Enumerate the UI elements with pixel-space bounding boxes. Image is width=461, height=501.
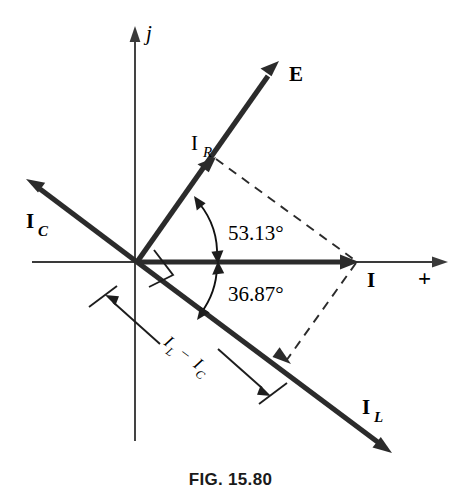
phasor-IL-label-sub: L [373,409,383,425]
phasor-diagram-canvas: j + E I R I C I L I 53.13° 36.87° I L − … [0,0,461,501]
phasor-IC-label: I C [26,209,49,239]
dashed-line-i-to-il [286,263,356,361]
phasor-IL-label: I L [362,395,383,425]
imaginary-axis-arrowhead [130,26,141,42]
phasor-diagram-figure: j + E I R I C I L I 53.13° 36.87° I L − … [0,0,461,501]
phasor-IR-label: I R [191,131,212,160]
dimension-leader-left [113,302,160,344]
angle-label-36: 36.87° [228,282,284,306]
dashed-line-ir-to-i [216,159,356,261]
phasor-IR-label-sub: R [202,144,212,160]
phasor-E-label: E [289,62,303,86]
angle-arc-53-path [199,203,217,258]
phasor-I-total [137,255,359,270]
phasor-I-label: I [367,268,375,292]
phasor-IL-mid-arrowhead [273,347,292,364]
phasor-IC [26,179,137,262]
phasor-IR-label-main: I [191,131,198,155]
phasor-IC-label-sub: C [38,223,49,239]
real-axis-arrowhead [432,257,448,268]
real-axis-label: + [418,266,431,291]
right-angle-marker [149,250,173,287]
dimension-leader-left-arrowhead [105,295,119,306]
angle-arc-53 [194,196,223,264]
angle-label-53: 53.13° [228,221,284,245]
dimension-label-group: I L − I C [157,331,215,383]
right-angle-marker-corner [149,250,173,287]
figure-caption: FIG. 15.80 [0,470,461,490]
phasor-E-arrowhead [261,61,280,76]
dimension-leader-right [218,349,262,388]
imaginary-axis [130,26,141,441]
imaginary-axis-label: j [143,21,152,45]
phasor-IC-label-main: I [26,209,34,233]
angle-arc-36 [197,261,224,320]
dimension-leader-right-arrowhead [257,385,271,396]
phasor-IL-label-main: I [362,395,370,419]
dimension-label-minus: − [176,343,195,364]
phasor-IC-shaft [40,189,137,262]
